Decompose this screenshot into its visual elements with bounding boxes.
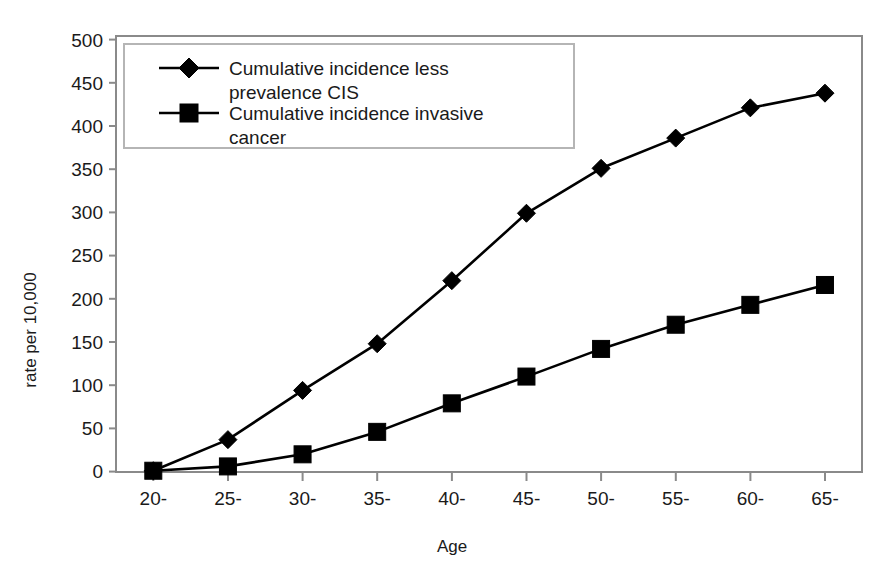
x-tick-label: 45- [513, 488, 540, 509]
y-tick-label: 450 [71, 73, 103, 94]
square-marker [443, 395, 460, 412]
x-tick-label: 20- [140, 488, 167, 509]
y-tick-label: 100 [71, 375, 103, 396]
y-axis-title: rate per 10,000 [21, 272, 40, 387]
x-tick-label: 65- [811, 488, 838, 509]
square-marker [294, 446, 311, 463]
y-tick-label: 0 [92, 461, 103, 482]
square-marker [593, 340, 610, 357]
square-marker [145, 462, 162, 479]
square-marker [816, 276, 833, 293]
legend-label-invasive-line1: Cumulative incidence invasive [229, 103, 484, 124]
x-tick-label: 35- [363, 488, 390, 509]
square-marker [369, 423, 386, 440]
x-tick-label: 40- [438, 488, 465, 509]
chart-legend: Cumulative incidence less prevalence CIS… [124, 44, 574, 148]
x-axis-ticks [153, 472, 825, 481]
x-tick-label: 60- [737, 488, 764, 509]
legend-label-cis-line1: Cumulative incidence less [229, 58, 449, 79]
y-tick-label: 500 [71, 30, 103, 51]
chart-figure: 0 50 100 150 200 250 300 350 400 450 500 [0, 0, 888, 578]
incidence-line-chart: 0 50 100 150 200 250 300 350 400 450 500 [0, 0, 888, 578]
legend-label-cis-line2: prevalence CIS [229, 82, 359, 103]
x-axis-tick-labels: 20- 25- 30- 35- 40- 45- 50- 55- 60- 65- [140, 488, 839, 509]
square-marker [219, 458, 236, 475]
square-marker [518, 368, 535, 385]
x-tick-label: 50- [587, 488, 614, 509]
x-tick-label: 30- [289, 488, 316, 509]
y-axis-ticks [109, 40, 116, 472]
x-tick-label: 25- [214, 488, 241, 509]
y-tick-label: 150 [71, 332, 103, 353]
square-marker [742, 296, 759, 313]
y-tick-label: 350 [71, 159, 103, 180]
y-tick-label: 250 [71, 245, 103, 266]
y-tick-label: 200 [71, 289, 103, 310]
y-tick-label: 400 [71, 116, 103, 137]
x-axis-title: Age [437, 537, 467, 556]
legend-label-invasive-line2: cancer [229, 127, 287, 148]
y-tick-label: 300 [71, 202, 103, 223]
square-marker [667, 316, 684, 333]
y-axis-tick-labels: 0 50 100 150 200 250 300 350 400 450 500 [71, 30, 103, 482]
square-marker [180, 104, 198, 122]
x-tick-label: 55- [662, 488, 689, 509]
y-tick-label: 50 [82, 418, 103, 439]
